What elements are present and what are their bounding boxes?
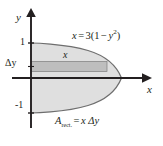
strip-width-label: x bbox=[63, 50, 67, 60]
equation-minus: − bbox=[100, 30, 109, 41]
area-equals: = bbox=[72, 115, 81, 126]
equation-equals: = bbox=[77, 30, 86, 41]
representative-rectangle-strip bbox=[31, 62, 107, 72]
y-tick-label-negative-one: -1 bbox=[15, 100, 23, 110]
area-expression: x Δy bbox=[81, 115, 99, 126]
equation-coefficient: 3(1 bbox=[86, 30, 100, 41]
y-tick-label-one: 1 bbox=[20, 37, 25, 47]
x-axis-label: x bbox=[147, 84, 152, 95]
delta-y-label: Δy bbox=[5, 58, 16, 68]
equation-lhs: x bbox=[72, 30, 77, 41]
y-axis-arrowhead bbox=[26, 8, 36, 17]
equation-close-paren: ) bbox=[117, 30, 121, 41]
y-axis-label: y bbox=[16, 12, 21, 23]
math-figure-parabola-region: y x 1 -1 Δy x x=3(1−y2) Arect.=x Δy bbox=[0, 0, 163, 146]
area-subscript: rect. bbox=[61, 122, 72, 128]
area-formula: Arect.=x Δy bbox=[55, 116, 99, 128]
curve-equation: x=3(1−y2) bbox=[72, 29, 120, 41]
x-axis-arrowhead bbox=[142, 73, 152, 83]
